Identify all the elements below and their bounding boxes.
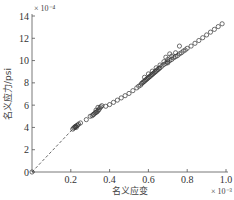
y-axis-multiplier: × 10⁻⁴ — [34, 4, 56, 13]
data-point — [177, 44, 181, 48]
data-point — [205, 33, 209, 37]
data-point — [208, 30, 212, 34]
data-point — [201, 36, 205, 40]
y-axis-label: 名义应力/psi — [2, 68, 13, 120]
data-point — [123, 94, 127, 98]
y-ticks: 02468101214 — [19, 11, 35, 178]
data-point — [212, 27, 216, 31]
x-tick-label: 1.0 — [220, 174, 233, 185]
data-point — [108, 102, 112, 106]
x-tick-label: 0.2 — [65, 174, 78, 185]
data-points — [30, 22, 224, 174]
data-point — [189, 44, 193, 48]
y-tick-label: 6 — [24, 100, 29, 111]
data-point — [197, 38, 201, 42]
y-tick-label: 10 — [19, 55, 29, 66]
x-tick-label: 0.4 — [103, 174, 116, 185]
data-point — [127, 91, 131, 95]
dashed-reference-line — [32, 129, 73, 172]
y-tick-label: 4 — [24, 122, 29, 133]
x-axis-multiplier: × 10⁻³ — [211, 187, 233, 196]
y-tick-label: 12 — [19, 33, 29, 44]
data-point — [216, 24, 220, 28]
x-ticks: 0.20.40.60.81.0 — [65, 169, 233, 185]
data-point — [119, 96, 123, 100]
stress-strain-chart: 0.20.40.60.81.0 02468101214 名义应变 名义应力/ps… — [0, 0, 234, 200]
data-point — [111, 100, 115, 104]
data-point — [131, 89, 135, 93]
x-tick-label: 0.6 — [142, 174, 155, 185]
data-point — [193, 41, 197, 45]
data-point — [115, 98, 119, 102]
x-tick-label: 0.8 — [181, 174, 194, 185]
y-tick-label: 14 — [19, 11, 29, 22]
y-tick-label: 8 — [24, 77, 29, 88]
data-point — [220, 22, 224, 26]
y-tick-label: 2 — [24, 144, 29, 155]
axes — [32, 14, 228, 172]
y-tick-label: 0 — [24, 167, 29, 178]
x-axis-label: 名义应变 — [112, 185, 148, 196]
data-point — [84, 118, 88, 122]
